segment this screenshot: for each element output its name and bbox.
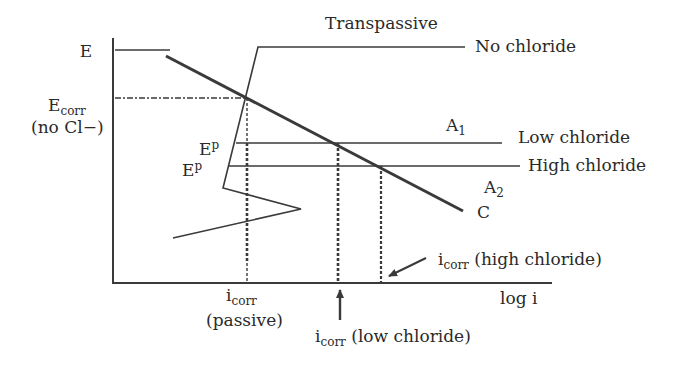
no-chloride-label: No chloride xyxy=(475,36,576,56)
y-axis-label: E xyxy=(80,41,92,61)
ecorr-note-label: (no Cl−) xyxy=(31,117,104,137)
ecorr-label: Ecorr xyxy=(48,95,86,118)
a1-label: A1 xyxy=(445,115,466,138)
high-chloride-label: High chloride xyxy=(528,155,646,175)
a2-label: A2 xyxy=(483,177,504,200)
icorr-high-label: icorr (high chloride) xyxy=(438,249,602,272)
ep-high-label: Ep xyxy=(182,159,202,180)
cathodic-line xyxy=(166,56,463,211)
low-chloride-label: Low chloride xyxy=(518,127,630,147)
polarization-diagram: E Transpassive No chloride Low chloride … xyxy=(0,0,676,366)
icorr-passive-label: icorr xyxy=(226,285,257,308)
icorr-passive-note-label: (passive) xyxy=(206,310,283,330)
icorr-low-label: icorr (low chloride) xyxy=(315,326,471,349)
ep-low-label: Ep xyxy=(199,138,219,159)
x-axis-label: log i xyxy=(500,288,538,308)
cathodic-c-label: C xyxy=(477,202,490,222)
transpassive-label: Transpassive xyxy=(325,13,438,33)
icorr-high-arrow xyxy=(389,258,426,276)
